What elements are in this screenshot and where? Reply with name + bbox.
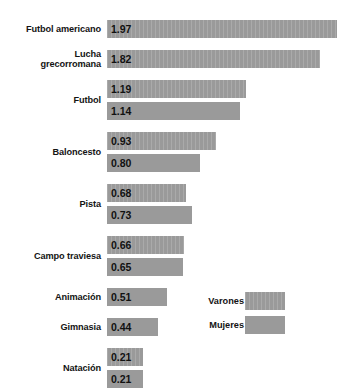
legend-label: Varones xyxy=(208,292,244,310)
category-label: Futbol xyxy=(0,95,101,106)
legend-swatch-mujeres xyxy=(245,316,285,334)
category-label: Animación xyxy=(0,292,101,303)
category-label-line: Futbol americano xyxy=(0,24,101,35)
bar-value-label: 1.14 xyxy=(111,102,131,120)
legend-swatch-varones xyxy=(245,292,285,310)
bar-value-label: 0.21 xyxy=(111,348,131,366)
bar-value-label: 0.66 xyxy=(111,236,131,254)
bar-group: Natación0.210.21 xyxy=(0,348,350,388)
category-label: Baloncesto xyxy=(0,147,101,158)
category-label: Natación xyxy=(0,363,101,374)
category-label-line: Campo traviesa xyxy=(0,251,101,262)
category-label-line: Futbol xyxy=(0,95,101,106)
bar-value-label: 0.68 xyxy=(111,184,131,202)
bar-group: Luchagrecorromana1.82 xyxy=(0,50,350,68)
bar-group: Baloncesto0.930.80 xyxy=(0,132,350,172)
bar-value-label: 0.21 xyxy=(111,370,131,388)
legend-item: Mujeres xyxy=(190,316,310,334)
bar-varones xyxy=(107,50,320,68)
category-label: Gimnasia xyxy=(0,322,101,333)
category-label-line: Animación xyxy=(0,292,101,303)
bar-value-label: 1.82 xyxy=(111,50,131,68)
bar-group: Pista0.680.73 xyxy=(0,184,350,224)
bar-group: Campo traviesa0.660.65 xyxy=(0,236,350,276)
bar-value-label: 0.93 xyxy=(111,132,131,150)
bar-value-label: 1.97 xyxy=(111,20,131,38)
legend-item: Varones xyxy=(190,292,310,310)
bar-group: Futbol americano1.97 xyxy=(0,20,350,38)
bar-value-label: 1.19 xyxy=(111,80,131,98)
chart-legend: VaronesMujeres xyxy=(190,292,310,340)
category-label: Luchagrecorromana xyxy=(0,49,101,70)
category-label: Pista xyxy=(0,199,101,210)
bar-group: Futbol1.191.14 xyxy=(0,80,350,120)
category-label: Futbol americano xyxy=(0,24,101,35)
bar-value-label: 0.80 xyxy=(111,154,131,172)
category-label-line: Pista xyxy=(0,199,101,210)
category-label-line: Lucha xyxy=(0,49,101,60)
bar-value-label: 0.65 xyxy=(111,258,131,276)
legend-label: Mujeres xyxy=(209,316,244,334)
bar-varones xyxy=(107,20,337,38)
category-label-line: Baloncesto xyxy=(0,147,101,158)
category-label-line: grecorromana xyxy=(0,59,101,70)
bar-value-label: 0.44 xyxy=(111,318,131,336)
category-label-line: Gimnasia xyxy=(0,322,101,333)
bar-value-label: 0.73 xyxy=(111,206,131,224)
category-label-line: Natación xyxy=(0,363,101,374)
bar-value-label: 0.51 xyxy=(111,288,131,306)
category-label: Campo traviesa xyxy=(0,251,101,262)
